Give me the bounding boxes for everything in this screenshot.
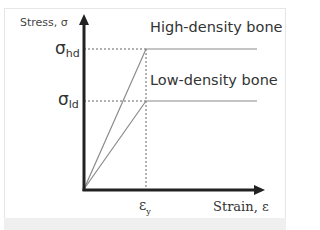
x-axis-label: Strain, ε <box>213 199 269 214</box>
epsilon-y-label: εy <box>139 197 151 216</box>
epsilon-y-subscript: y <box>146 207 151 216</box>
sigma-ld-label: σld <box>58 89 79 111</box>
sigma-hd-label: σhd <box>55 38 80 60</box>
x-axis-arrow-icon <box>254 185 265 195</box>
sigma-hd-subscript: hd <box>66 47 80 60</box>
sigma-symbol: σ <box>55 38 66 58</box>
low-density-curve <box>84 101 257 189</box>
sigma-symbol: σ <box>58 89 69 109</box>
sigma-ld-subscript: ld <box>69 98 79 111</box>
y-axis-label: Stress, σ <box>20 16 68 29</box>
y-axis-arrow-icon <box>79 14 89 25</box>
high-density-label: High-density bone <box>150 19 283 35</box>
low-density-label: Low-density bone <box>150 72 278 88</box>
high-density-curve <box>84 49 257 189</box>
